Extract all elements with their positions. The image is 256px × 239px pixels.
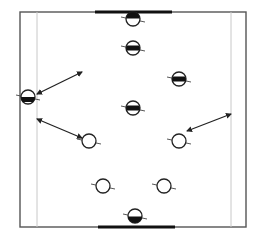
player-team-b-keeper-icon (123, 209, 147, 224)
drill-diagram (0, 0, 256, 239)
player-team-b-4-icon (152, 179, 176, 193)
player-team-b-2-icon (167, 134, 191, 148)
player-team-b-3-icon (91, 179, 115, 193)
arrow-2-icon (37, 119, 82, 138)
field-canvas (0, 0, 256, 239)
player-team-a-3-icon (121, 101, 145, 115)
player-team-a-2-icon (167, 72, 191, 86)
arrow-3-icon (187, 114, 231, 131)
player-team-a-1-icon (121, 41, 145, 55)
players (16, 12, 191, 224)
arrow-1-icon (37, 72, 82, 94)
player-team-a-keeper-icon (121, 12, 145, 26)
player-team-b-1-icon (77, 134, 101, 148)
